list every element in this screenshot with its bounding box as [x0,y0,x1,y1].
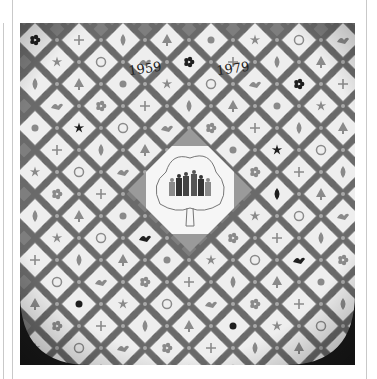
left-panel-outer-border [3,23,4,379]
quilt-image: 1959 1979 [20,23,355,365]
right-panel-border [366,0,367,379]
quilt-photo: 1959 1979 [20,23,355,365]
photo-vignette [20,23,355,365]
left-panel-inner-border [12,0,13,379]
